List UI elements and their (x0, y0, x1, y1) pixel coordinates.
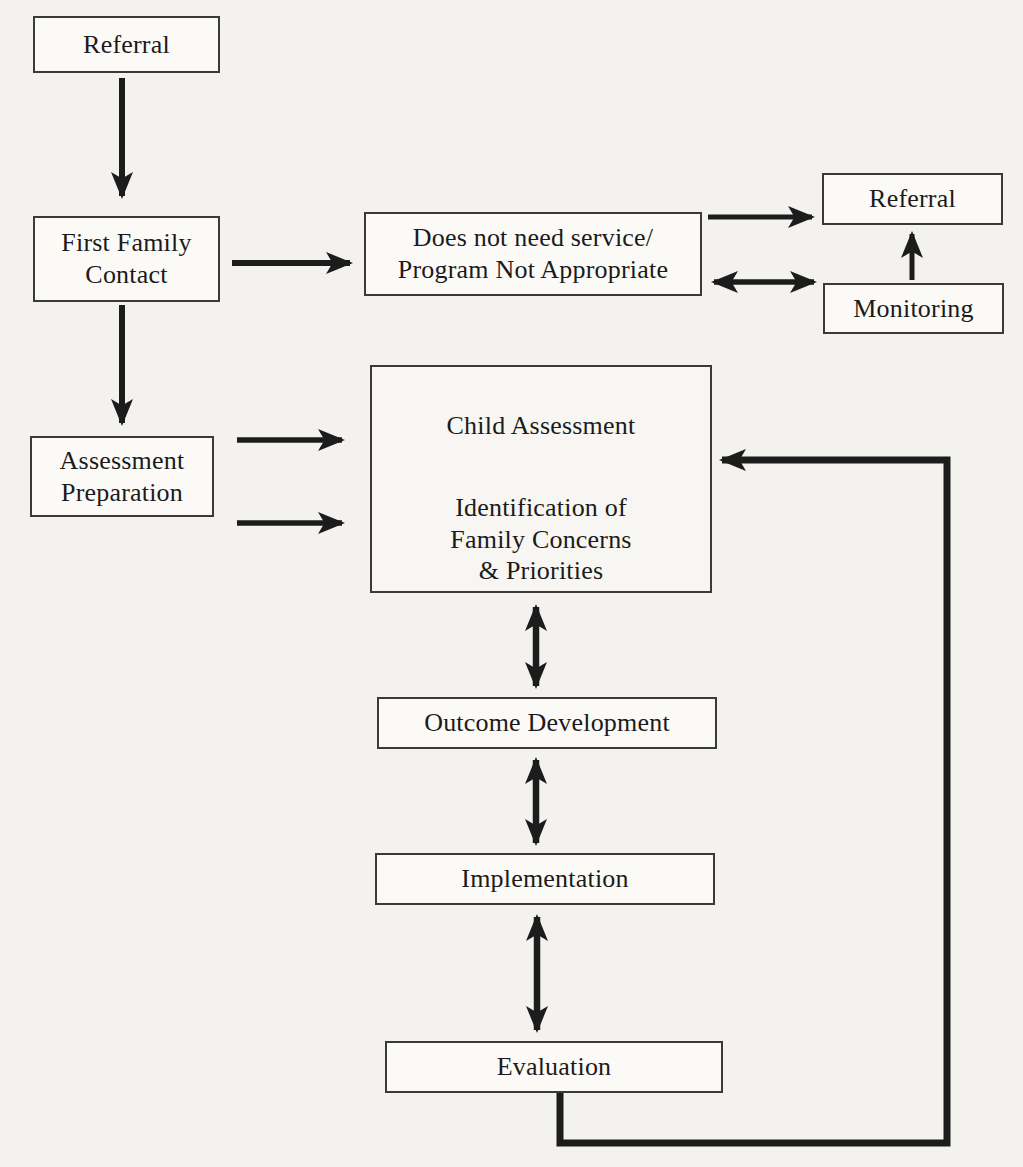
node-evaluation: Evaluation (385, 1041, 723, 1093)
node-implementation-label: Implementation (461, 863, 628, 895)
node-first-family-contact: First Family Contact (33, 216, 220, 302)
node-assessment-preparation: Assessment Preparation (30, 436, 214, 517)
flowchart-page: Referral First Family Contact Does not n… (0, 0, 1023, 1167)
node-child-assessment-label: Child Assessment (370, 410, 712, 442)
node-assessment-preparation-label: Assessment Preparation (60, 445, 185, 508)
node-referral-top: Referral (33, 16, 220, 73)
node-evaluation-label: Evaluation (497, 1051, 612, 1083)
node-monitoring: Monitoring (823, 283, 1004, 334)
node-referral-right: Referral (822, 173, 1003, 225)
node-does-not-need-service: Does not need service/ Program Not Appro… (364, 212, 702, 296)
node-monitoring-label: Monitoring (853, 293, 973, 325)
node-first-family-contact-label: First Family Contact (61, 227, 191, 290)
node-does-not-need-service-label: Does not need service/ Program Not Appro… (398, 222, 668, 285)
node-referral-right-label: Referral (869, 183, 956, 215)
node-outcome-development: Outcome Development (377, 697, 717, 749)
node-referral-top-label: Referral (83, 29, 170, 61)
node-family-concerns-label: Identification of Family Concerns & Prio… (406, 492, 676, 587)
node-implementation: Implementation (375, 853, 715, 905)
node-outcome-development-label: Outcome Development (424, 707, 670, 739)
